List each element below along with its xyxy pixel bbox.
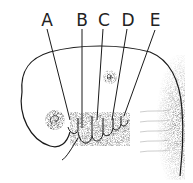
label-d: D <box>121 12 134 29</box>
label-a: A <box>41 12 53 29</box>
pharyngeal-arches <box>68 112 130 146</box>
label-e: E <box>150 12 161 29</box>
label-c: C <box>98 12 110 29</box>
embryo-diagram <box>0 0 193 183</box>
leader-line-a <box>47 29 70 120</box>
label-b: B <box>76 12 88 29</box>
leader-line-c <box>97 29 103 120</box>
